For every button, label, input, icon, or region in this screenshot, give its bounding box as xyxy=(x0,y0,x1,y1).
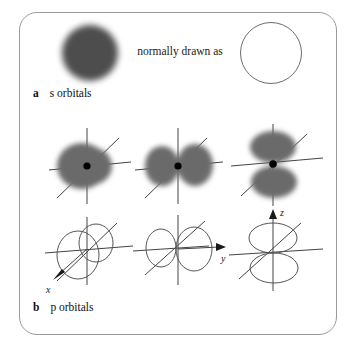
s-orbital-schematic-circle xyxy=(240,22,302,84)
caption-text-b: p orbitals xyxy=(50,301,93,313)
orbitals-figure: normally drawn as as orbitals xyxy=(0,0,349,351)
caption-text-a: s orbitals xyxy=(50,87,92,99)
caption-panel-a: as orbitals xyxy=(33,86,92,100)
caption-letter-a: a xyxy=(33,87,39,99)
caption-panel-b: bp orbitals xyxy=(33,300,94,314)
normally-drawn-as-label: normally drawn as xyxy=(124,44,236,58)
caption-letter-b: b xyxy=(33,301,39,313)
s-orbital-electron-density-sphere xyxy=(62,25,118,81)
